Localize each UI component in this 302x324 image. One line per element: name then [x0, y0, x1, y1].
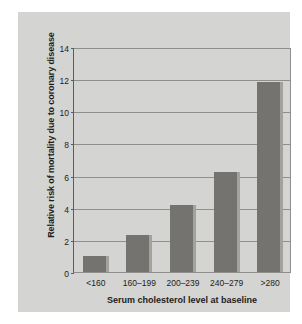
y-tick-label: 12 — [60, 76, 69, 86]
bar-slot — [205, 49, 249, 272]
y-tick-label: 6 — [64, 173, 69, 183]
x-tick-label: 200–239 — [166, 278, 199, 288]
x-tick-label: 160–199 — [123, 278, 156, 288]
x-tick-label: >280 — [261, 278, 280, 288]
x-axis-title: Serum cholesterol level at baseline — [73, 295, 291, 305]
y-axis-title: Relative risk of mortality due to corona… — [46, 30, 56, 240]
chart-panel: Relative risk of mortality due to corona… — [18, 12, 290, 312]
bar-slot — [74, 49, 118, 272]
bar-slot — [118, 49, 162, 272]
bar-slot — [161, 49, 205, 272]
x-tick-label: <160 — [86, 278, 105, 288]
chart-figure: Relative risk of mortality due to corona… — [0, 0, 302, 324]
y-tick-label: 14 — [60, 44, 69, 54]
bar-slot — [248, 49, 292, 272]
bar — [214, 172, 240, 272]
bar — [170, 205, 196, 273]
y-tick-mark — [71, 273, 74, 274]
bar — [257, 82, 283, 272]
y-tick-label: 0 — [64, 269, 69, 279]
y-tick-label: 4 — [64, 205, 69, 215]
bar — [83, 256, 109, 272]
x-tick-label: 240–279 — [210, 278, 243, 288]
y-tick-label: 2 — [64, 237, 69, 247]
bar — [126, 235, 152, 272]
y-tick-label: 10 — [60, 108, 69, 118]
plot-area: 02468101214 <160160–199200–239240–279>28… — [73, 48, 291, 273]
y-tick-label: 8 — [64, 140, 69, 150]
